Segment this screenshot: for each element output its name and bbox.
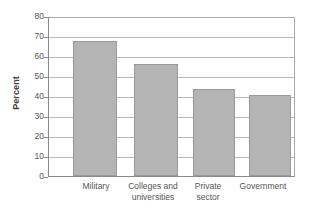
y-tick-label-30: 30 xyxy=(20,112,44,121)
x-tick-label-government: Government xyxy=(218,181,308,192)
y-tick-label-10: 10 xyxy=(20,152,44,161)
bar-private-sector[interactable] xyxy=(193,89,235,176)
bar-government[interactable] xyxy=(249,95,291,176)
y-tick-label-70: 70 xyxy=(20,32,44,41)
x-tick-label-government-line1: Government xyxy=(218,181,308,192)
y-tick-label-40: 40 xyxy=(20,92,44,101)
bar-chart: Percent 80 70 60 50 40 30 20 10 0 Milita… xyxy=(0,0,321,213)
y-tick-label-80: 80 xyxy=(20,12,44,21)
bar-military[interactable] xyxy=(73,41,117,176)
plot-area xyxy=(48,17,295,177)
y-tick-label-50: 50 xyxy=(20,72,44,81)
y-tick-label-60: 60 xyxy=(20,52,44,61)
bar-colleges-and-universities[interactable] xyxy=(134,64,178,176)
y-tick-label-20: 20 xyxy=(20,132,44,141)
gridline-70 xyxy=(49,37,294,38)
y-tick-label-0: 0 xyxy=(20,172,44,181)
y-tick-mark-0 xyxy=(44,177,48,178)
x-tick-label-private-line2: sector xyxy=(173,192,243,203)
